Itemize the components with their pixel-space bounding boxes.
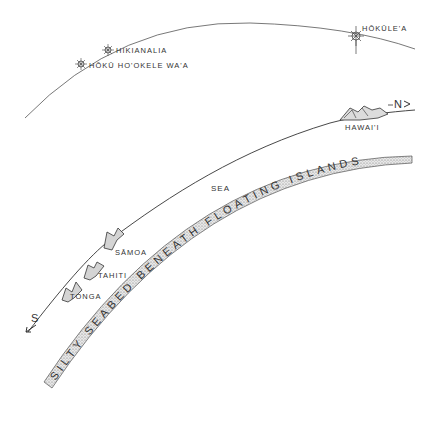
island-label-samoa: SĀMOA	[115, 248, 147, 257]
star-label-hoku-hookele-waa: HŌKŪ HO'OKELE WA'A	[89, 61, 189, 70]
island-tahiti: TAHITI	[84, 262, 127, 280]
island-tonga: TONGA	[62, 282, 102, 302]
wayfinding-diagram: HŌKŪLE'A HIKIANALIA HŌKŪ HO'OKELE WA'A H…	[0, 0, 443, 422]
star-icon	[102, 44, 114, 56]
sky-arc	[25, 23, 415, 118]
arrow-right-icon	[404, 101, 410, 107]
sea-label: SEA	[211, 184, 230, 193]
star-hoku-hookele-waa: HŌKŪ HO'OKELE WA'A	[75, 58, 189, 70]
island-samoa: SĀMOA	[104, 228, 147, 257]
star-label-hokulea: HŌKŪLE'A	[362, 24, 407, 33]
star-hikianalia: HIKIANALIA	[102, 44, 167, 56]
star-label-hikianalia: HIKIANALIA	[116, 46, 167, 55]
island-label-tonga: TONGA	[70, 292, 102, 301]
island-hawaii: HAWAI'I	[340, 106, 388, 132]
north-direction: N	[388, 98, 410, 110]
south-label: S	[31, 312, 39, 324]
arrow-down-left-icon	[26, 325, 36, 332]
island-label-hawaii: HAWAI'I	[345, 123, 380, 132]
star-hokulea: HŌKŪLE'A	[348, 24, 407, 54]
north-label: N	[394, 98, 403, 110]
island-label-tahiti: TAHITI	[98, 271, 127, 280]
south-direction: S	[26, 312, 39, 332]
